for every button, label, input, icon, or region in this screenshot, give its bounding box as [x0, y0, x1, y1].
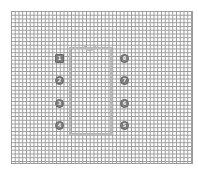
pad-pin-1[interactable]: 1: [55, 54, 64, 63]
pad-pin-8[interactable]: 8: [120, 54, 129, 63]
pad-pin-7[interactable]: 7: [120, 76, 129, 85]
pin-label: 3: [58, 101, 61, 106]
pin-label: 8: [123, 56, 126, 61]
pin-label: 2: [58, 78, 61, 83]
pad-pin-2[interactable]: 2: [55, 76, 64, 85]
pin-label: 5: [123, 123, 126, 128]
pin-label: 4: [58, 123, 61, 128]
pad-pin-4[interactable]: 4: [55, 121, 64, 130]
pad-pin-3[interactable]: 3: [55, 99, 64, 108]
pin-label: 1: [58, 56, 61, 61]
ic-body-outline: [69, 47, 112, 135]
pad-pin-6[interactable]: 6: [120, 99, 129, 108]
pin-label: 6: [123, 101, 126, 106]
pin-label: 7: [123, 78, 126, 83]
pad-pin-5[interactable]: 5: [120, 121, 129, 130]
